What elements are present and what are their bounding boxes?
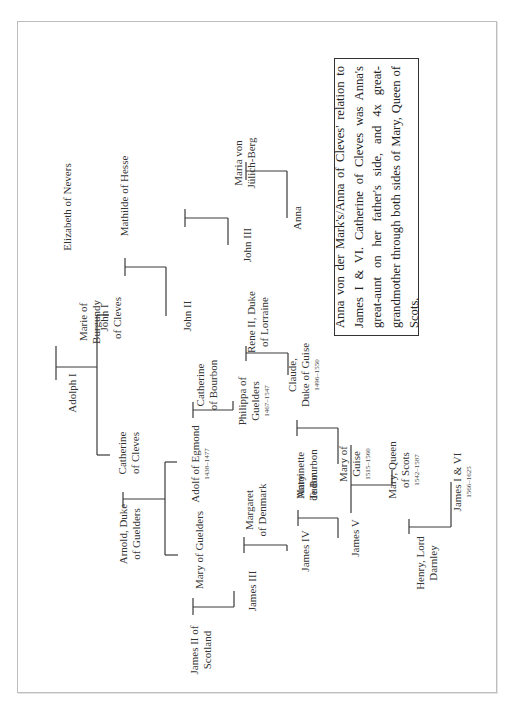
person-name-line: Henry, Lord bbox=[414, 536, 426, 590]
person-adolph-i: Adolph I bbox=[66, 373, 78, 413]
person-catherine-of-cleves: Catherineof Cleves bbox=[116, 432, 141, 475]
person-margaret-of-denmark: Margaretof Denmark bbox=[243, 483, 268, 536]
person-name-line: of Cleves bbox=[111, 297, 123, 339]
family-tree: Adolph IMarie ofBurgundyJohn Iof ClevesE… bbox=[0, 0, 510, 708]
person-john-ii: John II bbox=[181, 300, 193, 331]
person-name-line: Maria von bbox=[232, 140, 244, 186]
person-catherine-of-bourbon: Catherineof Bourbon bbox=[194, 359, 219, 410]
person-adolf-of-egmond: Adolf of Egmond1438–1477 bbox=[189, 425, 211, 503]
person-name-line: Catherine bbox=[116, 432, 128, 475]
person-name-line: John III bbox=[241, 227, 253, 262]
person-dates: 1438–1477 bbox=[203, 448, 211, 480]
person-james-ii-of-scotland: James II ofScotland bbox=[188, 625, 213, 674]
person-james-v: James V bbox=[349, 519, 361, 556]
person-name-line: of Denmark bbox=[256, 483, 268, 536]
person-name-line: Mathilde of Hesse bbox=[118, 156, 130, 237]
person-dates: 1467–1547 bbox=[263, 385, 271, 417]
person-maria-von-julich-berg: Maria vonJülich-Berg bbox=[232, 137, 257, 189]
person-name-line: Guise bbox=[350, 451, 362, 477]
caption-box: Anna von der Mark's/Anna of Cleves' rela… bbox=[334, 58, 419, 336]
person-name-line: Anna bbox=[291, 206, 303, 230]
person-name-line: Elizabeth of Nevers bbox=[61, 163, 73, 250]
person-name-line: of Bourbon bbox=[207, 359, 219, 410]
person-name-line: Mary bbox=[294, 475, 306, 499]
person-elizabeth-of-nevers: Elizabeth of Nevers bbox=[61, 163, 73, 250]
person-name-line: of Guelders bbox=[130, 508, 142, 560]
person-name-line: James II of bbox=[188, 625, 200, 674]
person-anna: Anna bbox=[291, 206, 303, 230]
caption-text: Anna von der Mark's/Anna of Cleves' rela… bbox=[330, 66, 423, 328]
person-name-line: of Lorraine bbox=[258, 297, 270, 347]
person-name-line: Darnley bbox=[427, 545, 439, 581]
person-dates: 1496–1550 bbox=[313, 359, 321, 391]
person-james-i-and-vi: James I & VI1566–1625 bbox=[451, 452, 473, 511]
person-name-line: Mary of Guelders bbox=[193, 511, 205, 589]
person-arnold-duke-of-guelders: Arnold, Dukeof Guelders bbox=[117, 504, 142, 565]
person-henry-lord-darnley: Henry, LordDarnley bbox=[414, 536, 439, 590]
person-name-line: James I & VI bbox=[451, 452, 463, 511]
person-dates: 1515–1560 bbox=[364, 448, 372, 480]
person-name-line: James V bbox=[349, 519, 361, 556]
person-name-line: John I bbox=[98, 304, 110, 332]
person-name-line: James IV bbox=[299, 530, 311, 571]
person-dates: 1566–1625 bbox=[465, 466, 473, 498]
person-james-iii: James III bbox=[246, 570, 258, 611]
person-name-line: of Scots bbox=[399, 452, 411, 488]
person-name-line: Mary of bbox=[337, 446, 349, 482]
person-name-line: Guelders bbox=[249, 381, 261, 421]
person-james-iv: James IV bbox=[299, 530, 311, 571]
person-name-line: Arnold, Duke bbox=[117, 504, 129, 565]
person-mary-of-guise: Mary ofGuise1515–1560 bbox=[337, 446, 372, 482]
person-mary-of-guelders: Mary of Guelders bbox=[193, 511, 205, 589]
person-mary-tudor: MaryTudor bbox=[294, 473, 319, 500]
person-name-line: of Cleves bbox=[129, 432, 141, 474]
person-name-line: Catherine bbox=[194, 364, 206, 407]
person-name-line: Adolf of Egmond bbox=[189, 425, 201, 503]
person-name-line: Margaret bbox=[243, 490, 255, 530]
person-mathilde-of-hesse: Mathilde of Hesse bbox=[118, 156, 130, 237]
person-john-iii: John III bbox=[241, 227, 253, 262]
person-name-line: John II bbox=[181, 300, 193, 331]
person-name-line: Rene II, Duke bbox=[245, 291, 257, 353]
person-dates: 1542–1587 bbox=[413, 454, 421, 486]
person-claude-duke-of-guise: Claude,Duke of Guise1496–1550 bbox=[286, 343, 321, 407]
person-name-line: Scotland bbox=[201, 630, 213, 669]
person-philippa-of-guelders: Philippa ofGuelders1467–1547 bbox=[236, 376, 271, 425]
person-name-line: Adolph I bbox=[66, 373, 78, 413]
person-name-line: James III bbox=[246, 570, 258, 611]
person-name-line: Claude, bbox=[286, 358, 298, 392]
person-name-line: Jülich-Berg bbox=[245, 137, 257, 189]
person-name-line: Duke of Guise bbox=[299, 343, 311, 407]
person-name-line: Marie of bbox=[77, 303, 89, 342]
person-name-line: Tudor bbox=[307, 473, 319, 500]
person-name-line: Mary, Queen bbox=[386, 441, 398, 499]
person-mary-queen-of-scots: Mary, Queenof Scots1542–1587 bbox=[386, 441, 421, 499]
person-rene-ii-duke-of-lorraine: Rene II, Dukeof Lorraine bbox=[245, 291, 270, 353]
person-name-line: Philippa of bbox=[236, 376, 248, 425]
